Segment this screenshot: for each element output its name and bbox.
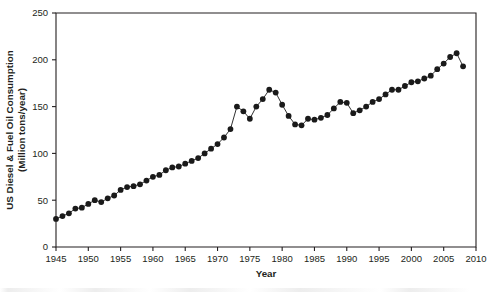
data-point — [415, 78, 421, 84]
data-point — [421, 76, 427, 82]
x-tick-label: 1975 — [239, 253, 260, 264]
x-axis-title: Year — [256, 268, 277, 279]
y-tick-label: 200 — [32, 54, 48, 65]
data-point — [163, 167, 169, 173]
data-point — [176, 164, 182, 170]
data-point — [72, 206, 78, 212]
data-point — [383, 92, 389, 98]
data-point — [389, 87, 395, 93]
data-point — [92, 197, 98, 203]
data-point — [228, 126, 234, 132]
data-point — [189, 158, 195, 164]
data-point — [402, 83, 408, 89]
y-tick-label: 50 — [37, 195, 48, 206]
data-series-diesel-fuel-oil — [53, 50, 466, 221]
data-point — [253, 104, 259, 110]
data-point — [299, 122, 305, 128]
y-axis-title-line2: (Million tons/year) — [16, 88, 27, 172]
data-point — [434, 66, 440, 72]
plot-frame — [56, 13, 476, 247]
data-point — [79, 205, 85, 211]
data-point — [111, 193, 117, 199]
data-point — [357, 107, 363, 113]
y-tick-label: 150 — [32, 101, 48, 112]
data-point — [363, 104, 369, 110]
data-point — [247, 116, 253, 122]
data-point — [85, 201, 91, 207]
x-tick-label: 1965 — [175, 253, 196, 264]
data-point — [331, 106, 337, 112]
data-point — [215, 141, 221, 147]
data-point — [60, 213, 66, 219]
data-point — [460, 63, 466, 69]
chart-svg: 050100150200250 194519501955196019651970… — [0, 0, 494, 292]
data-point — [105, 195, 111, 201]
data-point — [408, 79, 414, 85]
x-tick-label: 1980 — [272, 253, 293, 264]
data-point — [66, 210, 72, 216]
x-tick-label: 1995 — [369, 253, 390, 264]
data-point — [344, 100, 350, 106]
data-point — [396, 87, 402, 93]
data-point — [370, 99, 376, 105]
data-point — [350, 110, 356, 116]
y-tick-label: 250 — [32, 7, 48, 18]
data-point — [312, 117, 318, 123]
data-point — [182, 161, 188, 167]
data-point — [292, 121, 298, 127]
data-point — [156, 172, 162, 178]
page-footer-smudge — [0, 288, 494, 292]
data-point — [169, 165, 175, 171]
data-point — [137, 181, 143, 187]
x-tick-label: 1970 — [207, 253, 228, 264]
data-point — [53, 216, 59, 222]
data-point — [240, 108, 246, 114]
data-point — [234, 104, 240, 110]
y-tick-label: 0 — [43, 241, 48, 252]
y-tick-label: 100 — [32, 148, 48, 159]
data-point — [376, 96, 382, 102]
chart-figure: 050100150200250 194519501955196019651970… — [0, 0, 494, 292]
x-axis-ticks: 1945195019551960196519701975198019851990… — [45, 247, 486, 264]
x-tick-label: 1955 — [110, 253, 131, 264]
x-tick-label: 1945 — [45, 253, 66, 264]
data-point — [260, 96, 266, 102]
data-point — [195, 155, 201, 161]
data-point — [118, 187, 124, 193]
x-tick-label: 2005 — [433, 253, 454, 264]
data-point — [98, 199, 104, 205]
x-tick-label: 1950 — [78, 253, 99, 264]
y-axis-title: US Diesel & Fuel Oil Consumption (Millio… — [4, 50, 27, 210]
data-point — [428, 73, 434, 79]
data-point — [124, 184, 130, 190]
data-point — [150, 174, 156, 180]
y-axis-ticks: 050100150200250 — [32, 7, 56, 252]
data-point — [273, 90, 279, 96]
data-point — [221, 135, 227, 141]
data-point — [202, 151, 208, 157]
data-point — [447, 54, 453, 60]
data-point — [144, 178, 150, 184]
data-point — [131, 183, 137, 189]
data-point — [441, 61, 447, 67]
data-point — [454, 50, 460, 56]
x-tick-label: 1960 — [142, 253, 163, 264]
data-point — [266, 87, 272, 93]
data-point — [279, 102, 285, 108]
x-tick-label: 2000 — [401, 253, 422, 264]
x-tick-label: 1985 — [304, 253, 325, 264]
data-point — [324, 112, 330, 118]
data-point — [305, 116, 311, 122]
y-axis-title-line1: US Diesel & Fuel Oil Consumption — [4, 50, 15, 210]
data-point — [208, 146, 214, 152]
data-point — [318, 115, 324, 121]
x-tick-label: 1990 — [336, 253, 357, 264]
data-point — [337, 99, 343, 105]
x-tick-label: 2010 — [465, 253, 486, 264]
data-point — [286, 113, 292, 119]
